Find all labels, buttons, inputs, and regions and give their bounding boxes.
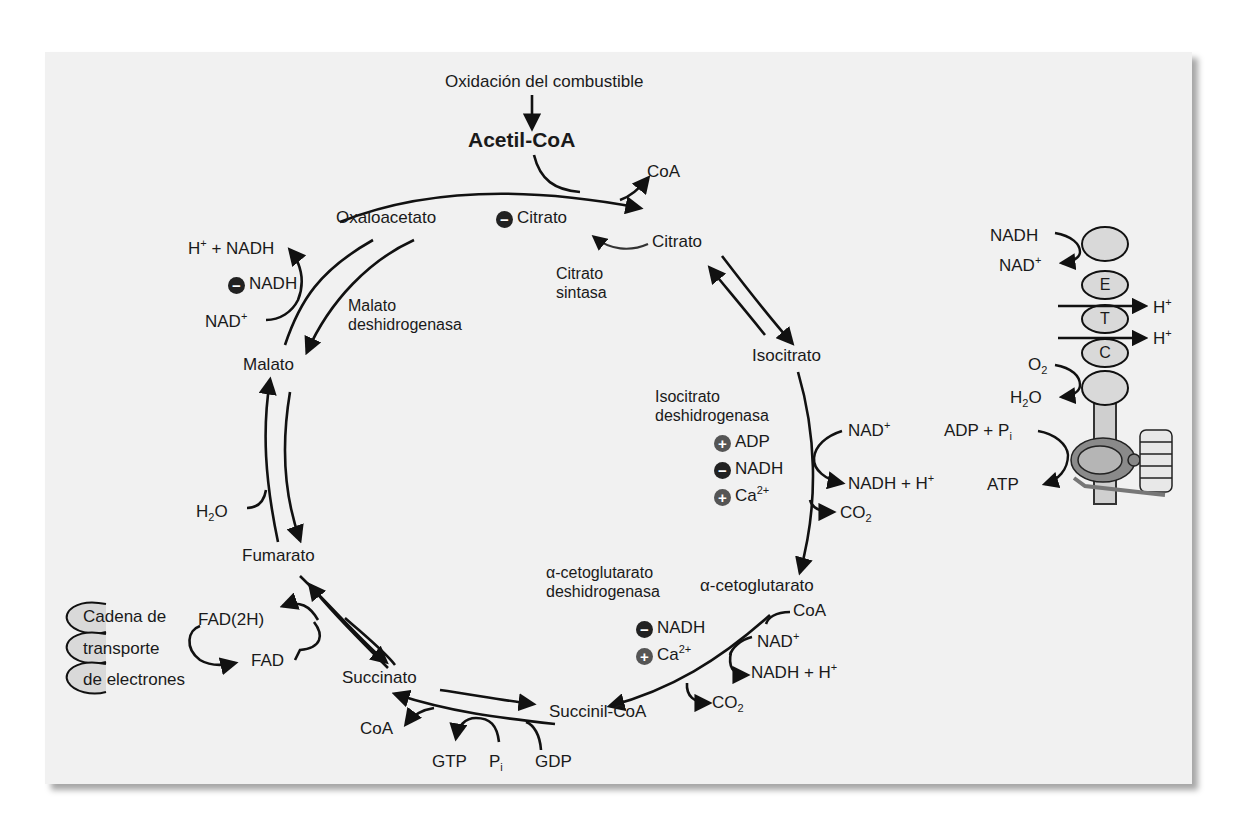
- oxaloacetato-label: Oxaloacetato: [336, 208, 436, 228]
- pi-label: Pi: [489, 752, 503, 772]
- complex-t-label: T: [1095, 310, 1115, 328]
- etc-box-label-3: de electrones: [83, 670, 185, 690]
- malate-dh-label-1: Malato: [348, 296, 396, 315]
- coa-release-label: CoA: [647, 162, 680, 182]
- complex-c-label: C: [1095, 344, 1115, 362]
- citrate-synthase-regulator: −Citrato: [496, 208, 567, 228]
- malate-dh-regulator: −NADH: [228, 274, 297, 294]
- citrate-synthase-label-2: sintasa: [556, 283, 607, 302]
- akg-nadh-out-label: NADH + H+: [751, 663, 837, 683]
- plus-icon: +: [636, 648, 653, 665]
- gdp-label: GDP: [535, 752, 572, 772]
- akgdh-regulator-nadh: −NADH: [636, 618, 705, 638]
- malato-label: Malato: [243, 355, 294, 375]
- minus-icon: −: [636, 621, 653, 638]
- atp-synthase: [1071, 430, 1172, 495]
- akgdh-regulator-ca: +Ca2+: [636, 645, 691, 665]
- scs-coa-out-label: CoA: [360, 719, 393, 739]
- minus-icon: −: [228, 277, 245, 294]
- malate-nadh-out-label: H+ + NADH: [188, 239, 274, 259]
- minus-icon: −: [714, 462, 731, 479]
- icdh-nad-in-label: NAD+: [848, 421, 890, 441]
- malate-dh-label-2: deshidrogenasa: [348, 315, 462, 334]
- tca-cycle-arrows: [0, 0, 1240, 823]
- akg-coa-in-label: CoA: [793, 601, 826, 621]
- succinato-label: Succinato: [342, 668, 417, 688]
- etc-nad-label: NAD+: [999, 256, 1041, 276]
- akg-co2-label: CO2: [712, 693, 744, 713]
- etc-nadh-label: NADH: [990, 226, 1038, 246]
- plus-icon: +: [714, 435, 731, 452]
- adp-pi-label: ADP + Pi: [944, 421, 1012, 441]
- citrate-synthase-label-1: Citrato: [556, 264, 603, 283]
- fuel-oxidation-label: Oxidación del combustible: [445, 72, 643, 92]
- plus-icon: +: [714, 489, 731, 506]
- malate-nad-in-label: NAD+: [205, 312, 247, 332]
- h-out-1-label: H+: [1153, 298, 1172, 318]
- h-out-2-label: H+: [1153, 329, 1172, 349]
- complex-e-label: E: [1095, 276, 1115, 294]
- akgdh-label-2: deshidrogenasa: [546, 582, 660, 601]
- icdh-nadh-out-label: NADH + H+: [848, 474, 934, 494]
- icdh-regulator-adp: +ADP: [714, 432, 770, 452]
- succinil-coa-label: Succinil-CoA: [549, 702, 646, 722]
- icdh-regulator-nadh: −NADH: [714, 459, 783, 479]
- gtp-label: GTP: [432, 752, 467, 772]
- acetyl-coa-label: Acetil-CoA: [468, 130, 575, 150]
- minus-icon: −: [496, 211, 513, 228]
- etc-box-label-1: Cadena de: [83, 607, 166, 627]
- fad2h-label: FAD(2H): [198, 610, 264, 630]
- isocitrato-label: Isocitrato: [752, 346, 821, 366]
- alpha-ketoglutarato-label: α-cetoglutarato: [700, 576, 814, 596]
- icdh-co2-label: CO2: [840, 503, 872, 523]
- fumarato-label: Fumarato: [242, 546, 315, 566]
- citrato-label: Citrato: [652, 232, 702, 252]
- etc-box-label-2: transporte: [83, 639, 160, 659]
- icdh-regulator-ca: +Ca2+: [714, 486, 769, 506]
- icdh-label-1: Isocitrato: [655, 387, 720, 406]
- akgdh-label-1: α-cetoglutarato: [546, 563, 653, 582]
- o2-label: O2: [1028, 355, 1047, 375]
- akg-nad-in-label: NAD+: [757, 632, 799, 652]
- fad-label: FAD: [251, 651, 284, 671]
- fumarase-h2o-label: H2O: [196, 502, 228, 522]
- atp-label: ATP: [987, 475, 1019, 495]
- icdh-label-2: deshidrogenasa: [655, 406, 769, 425]
- h2o-label: H2O: [1010, 388, 1042, 408]
